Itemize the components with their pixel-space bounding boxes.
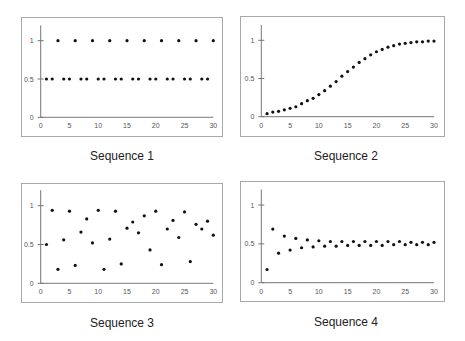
x-tick-label: 5 (68, 122, 72, 129)
data-point (404, 243, 407, 246)
data-point (85, 77, 88, 80)
chart-panel-sequence-2: 00.51051015202530 Sequence 2 (232, 0, 465, 170)
data-point (177, 236, 180, 239)
data-point (335, 245, 338, 248)
chart-panel-sequence-1: 00.51051015202530 Sequence 1 (0, 0, 232, 170)
x-tick-label: 10 (94, 288, 102, 295)
y-tick-label: 1 (30, 37, 34, 44)
data-point (62, 238, 65, 241)
x-tick-label: 25 (181, 288, 189, 295)
chart-panel-sequence-4: 00.51051015202530 Sequence 4 (232, 170, 465, 341)
data-point (352, 240, 355, 243)
y-tick-label: 0.5 (245, 75, 255, 82)
data-point (56, 39, 59, 42)
data-point (277, 252, 280, 255)
data-point (171, 77, 174, 80)
data-point (51, 77, 54, 80)
data-point (386, 46, 389, 49)
scatter-plot: 00.51051015202530 (0, 0, 232, 170)
data-point (277, 110, 280, 113)
x-tick-label: 0 (39, 288, 43, 295)
data-point (102, 268, 105, 271)
data-point (294, 105, 297, 108)
data-point (398, 240, 401, 243)
data-point (381, 244, 384, 247)
data-point (358, 61, 361, 64)
data-point (171, 219, 174, 222)
x-tick-label: 25 (181, 122, 189, 129)
data-point (317, 93, 320, 96)
data-point (177, 39, 180, 42)
data-point (323, 89, 326, 92)
y-tick-label: 0.5 (245, 240, 255, 247)
x-tick-label: 10 (315, 288, 323, 295)
data-point (329, 85, 332, 88)
chart-caption: Sequence 3 (52, 316, 192, 330)
data-point (189, 260, 192, 263)
data-point (381, 48, 384, 51)
data-point (212, 39, 215, 42)
y-tick-label: 0.5 (24, 241, 34, 248)
data-point (85, 217, 88, 220)
data-point (160, 39, 163, 42)
data-point (317, 239, 320, 242)
y-tick-label: 1 (30, 202, 34, 209)
y-tick-label: 0 (250, 279, 254, 286)
data-point (369, 53, 372, 56)
chart-caption: Sequence 2 (276, 149, 416, 163)
x-tick-label: 20 (373, 122, 381, 129)
x-tick-label: 10 (94, 122, 102, 129)
data-point (194, 223, 197, 226)
data-point (346, 70, 349, 73)
x-tick-label: 15 (123, 288, 131, 295)
data-point (271, 227, 274, 230)
data-point (288, 248, 291, 251)
data-point (166, 227, 169, 230)
x-tick-label: 30 (430, 122, 438, 129)
data-point (392, 243, 395, 246)
data-point (194, 39, 197, 42)
data-point (137, 77, 140, 80)
data-point (189, 77, 192, 80)
data-point (427, 243, 430, 246)
y-tick-label: 0 (30, 114, 34, 121)
data-point (306, 99, 309, 102)
data-point (271, 111, 274, 114)
data-point (131, 77, 134, 80)
data-point (265, 268, 268, 271)
data-point (102, 77, 105, 80)
data-point (409, 41, 412, 44)
x-tick-label: 25 (401, 288, 409, 295)
y-tick-label: 1 (250, 202, 254, 209)
data-point (74, 264, 77, 267)
data-point (200, 77, 203, 80)
data-point (125, 227, 128, 230)
data-point (45, 243, 48, 246)
data-point (392, 44, 395, 47)
data-point (212, 234, 215, 237)
data-point (154, 77, 157, 80)
data-point (404, 42, 407, 45)
data-point (283, 234, 286, 237)
x-tick-label: 5 (288, 288, 292, 295)
x-tick-label: 0 (259, 288, 263, 295)
data-point (62, 77, 65, 80)
data-point (363, 240, 366, 243)
data-point (51, 209, 54, 212)
x-tick-label: 5 (288, 122, 292, 129)
data-point (97, 77, 100, 80)
data-point (300, 246, 303, 249)
y-tick-label: 0 (30, 280, 34, 287)
data-point (375, 240, 378, 243)
x-tick-label: 15 (123, 122, 131, 129)
data-point (283, 108, 286, 111)
data-point (200, 227, 203, 230)
x-tick-label: 5 (68, 288, 72, 295)
data-point (166, 77, 169, 80)
data-point (91, 39, 94, 42)
data-point (306, 238, 309, 241)
data-point (120, 77, 123, 80)
x-tick-label: 20 (373, 288, 381, 295)
data-point (137, 231, 140, 234)
y-tick-label: 1 (250, 37, 254, 44)
